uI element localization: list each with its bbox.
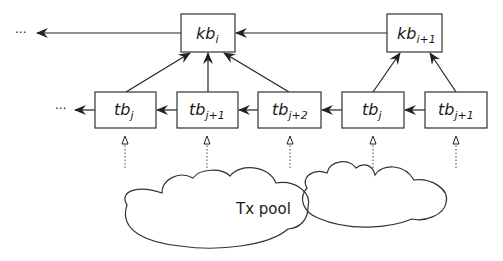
key-block-kb-i: kbi [181,14,235,52]
open-arrowhead-icon [370,136,376,144]
open-arrowhead-icon [122,136,128,144]
tx-block-tbj1-a: tbj+1 [177,92,238,128]
open-arrowhead-icon [204,136,210,144]
tx-pool-label: Tx pool [235,200,291,218]
tx-block-tbj-a: tbj [95,92,156,128]
svg-text:kbi: kbi [196,24,218,46]
open-arrowhead-icon [453,136,459,144]
tx-block-tbj-b: tbj [342,92,404,128]
ellipsis-top: ··· [15,26,26,40]
edge-tbj2-to-kb-i [224,53,289,92]
open-arrowheads [122,136,459,144]
ellipsis-bottom: ··· [55,102,66,116]
edge-tbj1-b-to-kb-i1 [430,53,456,92]
blockchain-diagram: ··· ··· kbi kbi+1 tbj [0,0,503,261]
tx-block-tbj2-a: tbj+2 [258,92,321,128]
pool-arrows [125,144,456,168]
edge-tbj-b-to-kb-i1 [373,53,400,92]
edge-tbj-to-kb-i [126,53,190,92]
key-block-kb-i1: kbi+1 [387,14,442,52]
tx-block-tbj1-b: tbj+1 [425,92,487,128]
open-arrowhead-icon [287,136,293,144]
tx-pool-cloud-right [303,162,447,227]
